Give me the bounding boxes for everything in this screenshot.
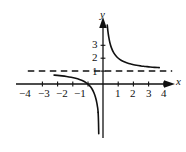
x-tick-label-1: 1: [115, 88, 121, 99]
x-tick-label-neg2: −2: [56, 88, 68, 99]
y-tick-label-3: 3: [92, 39, 98, 50]
y-tick-label-2: 2: [92, 52, 98, 63]
curve-branch-quadrant-III-tail: [98, 112, 99, 133]
axis-label-x: x: [176, 76, 181, 87]
axis-lines: [16, 17, 175, 138]
function-graph-figure: −4−3−2−11234321yx: [0, 0, 186, 152]
x-tick-label-4: 4: [161, 88, 167, 99]
y-tick-label-1: 1: [92, 66, 98, 77]
x-tick-label-neg3: −3: [38, 88, 50, 99]
x-tick-label-neg4: −4: [19, 88, 31, 99]
curve-branch-quadrant-I: [107, 25, 159, 68]
axis-label-y: y: [100, 9, 105, 20]
function-curves: [54, 25, 159, 134]
x-tick-label-3: 3: [146, 88, 152, 99]
x-tick-label-neg1: −1: [74, 88, 86, 99]
x-tick-label-2: 2: [130, 88, 136, 99]
